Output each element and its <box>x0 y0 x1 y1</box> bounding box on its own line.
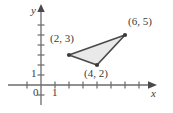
point-label-c: (6, 5) <box>128 16 152 27</box>
origin-tick-label: 0 <box>33 87 39 98</box>
coordinate-plane-figure: y x 0 1 1 (2, 3) (4, 2) (6, 5) <box>0 0 173 113</box>
y-tick-label-1: 1 <box>31 68 37 79</box>
point-label-a: (2, 3) <box>50 33 74 44</box>
y-axis-arrow-icon <box>37 4 44 12</box>
vertex-dot-c <box>123 33 127 37</box>
vertex-dot-a <box>67 53 71 57</box>
x-tick-label-1: 1 <box>52 87 58 98</box>
point-label-b: (4, 2) <box>84 68 108 79</box>
y-axis-label: y <box>31 5 36 16</box>
x-axis-label: x <box>151 88 156 99</box>
triangle-shape <box>69 35 125 65</box>
